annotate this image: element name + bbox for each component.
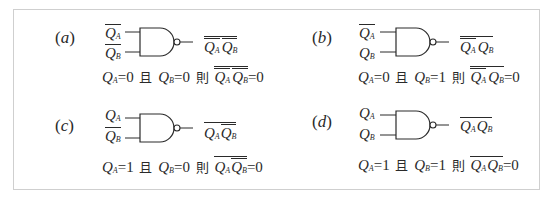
output-label: QAQB — [204, 36, 237, 55]
panel-b: (b) QA QB QAQB QA=0 且 QB=1 則 QAQB=0 — [255, 0, 515, 90]
truth-equation: QA=0 且 QB=0 則 QAQB=0 — [102, 66, 264, 85]
panel-c: (c) QA QB QAQB QA=1 且 QB=0 則 QAQB=0 — [0, 96, 260, 186]
truth-equation: QA=1 且 QB=1 則 QAQB=0 — [358, 156, 519, 173]
output-label: QAQB — [460, 117, 492, 134]
truth-equation: QA=1 且 QB=0 則 QAQB=0 — [102, 156, 263, 175]
output-label: QAQB — [204, 122, 236, 141]
panel-d: (d) QA QB QAQB QA=1 且 QB=1 則 QAQB=0 — [255, 96, 515, 186]
output-label: QAQB — [460, 36, 493, 55]
truth-equation: QA=0 且 QB=1 則 QAQB=0 — [358, 66, 520, 85]
panel-a: (a) QA QB QAQB QA=0 且 QB=0 則 QAQB=0 — [0, 0, 260, 90]
